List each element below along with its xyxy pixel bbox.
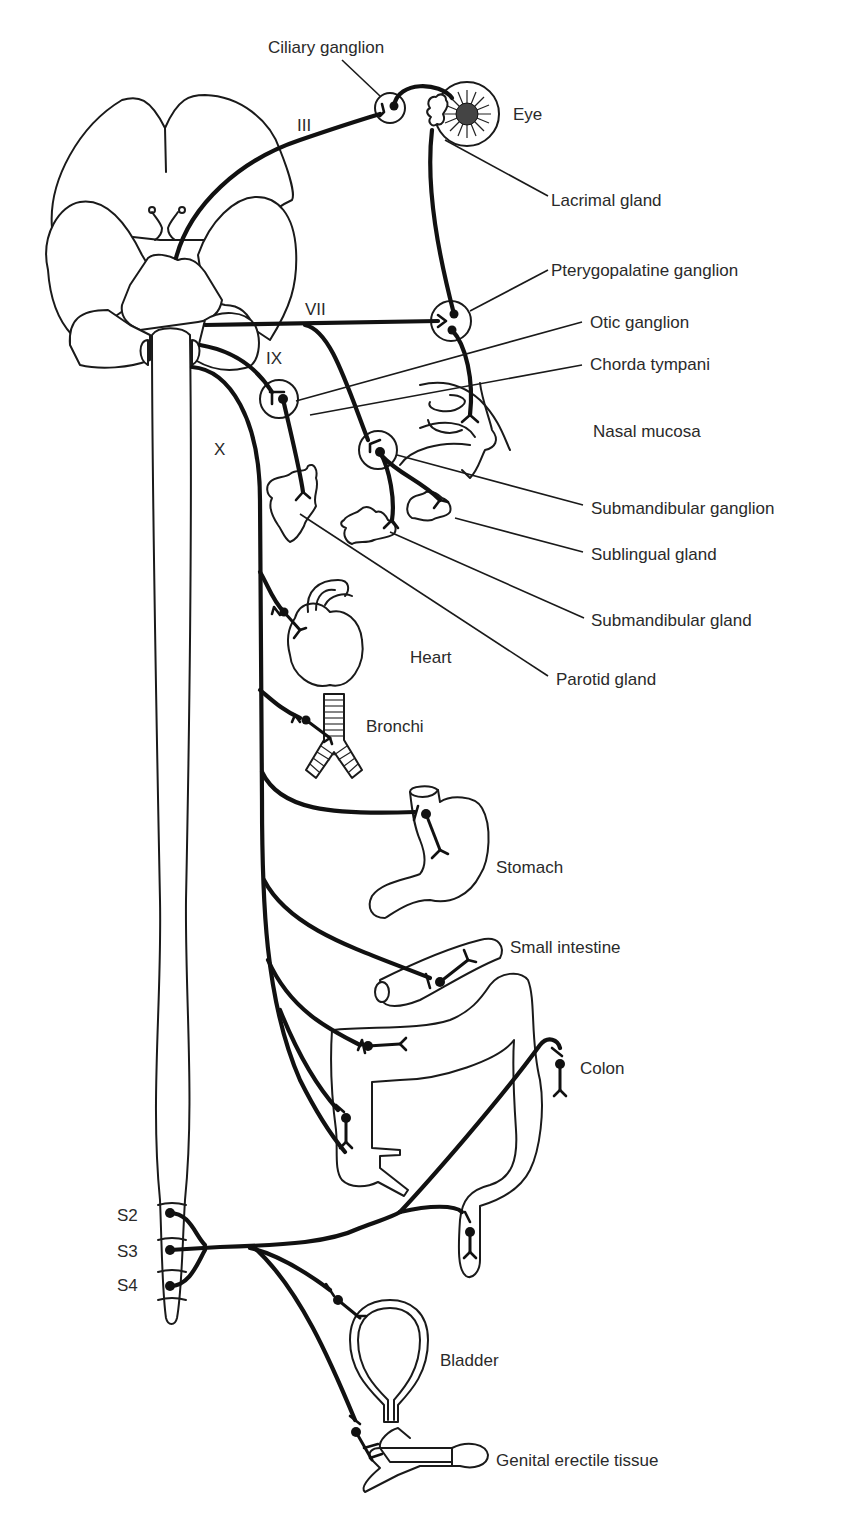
label-lacrimal-gland: Lacrimal gland — [551, 191, 662, 210]
label-small-intestine: Small intestine — [510, 938, 621, 957]
segment-label-s2: S2 — [117, 1206, 138, 1225]
nerve-label-x: X — [214, 440, 225, 459]
label-bronchi: Bronchi — [366, 717, 424, 736]
parasympathetic-diagram: III VII IX X Ciliary ganglion Eye Lacrim… — [0, 0, 860, 1527]
label-chorda-tympani: Chorda tympani — [590, 355, 710, 374]
label-sublingual-gland: Sublingual gland — [591, 545, 717, 564]
nerve-label-vii: VII — [305, 300, 326, 319]
label-eye: Eye — [513, 105, 542, 124]
label-otic-ganglion: Otic ganglion — [590, 313, 689, 332]
genital-erectile-tissue-shape — [363, 1428, 488, 1492]
label-ciliary-ganglion: Ciliary ganglion — [268, 38, 384, 57]
nerve-label-ix: IX — [266, 349, 282, 368]
segment-label-s4: S4 — [117, 1276, 138, 1295]
lacrimal-gland-shape — [427, 94, 448, 125]
segment-label-s3: S3 — [117, 1242, 138, 1261]
nerve-label-iii: III — [297, 116, 311, 135]
spinal-cord — [152, 328, 191, 1324]
label-bladder: Bladder — [440, 1351, 499, 1370]
label-parotid-gland: Parotid gland — [556, 670, 656, 689]
bronchi-shape — [306, 694, 362, 778]
label-stomach: Stomach — [496, 858, 563, 877]
colon-shape — [331, 974, 542, 1277]
ciliary-ganglion — [375, 93, 405, 123]
bladder-shape — [350, 1300, 428, 1422]
label-heart: Heart — [410, 648, 452, 667]
label-colon: Colon — [580, 1059, 624, 1078]
sublingual-gland-shape — [407, 491, 450, 520]
nasal-mucosa-shape — [400, 383, 510, 478]
stomach-shape — [370, 786, 489, 918]
cerebellum-right — [195, 313, 259, 370]
parotid-gland-shape — [267, 465, 317, 542]
label-genital-erectile-tissue: Genital erectile tissue — [496, 1451, 659, 1470]
label-submandibular-ganglion: Submandibular ganglion — [591, 499, 774, 518]
label-submandibular-gland: Submandibular gland — [591, 611, 752, 630]
label-pterygopalatine-ganglion: Pterygopalatine ganglion — [551, 261, 738, 280]
label-nasal-mucosa: Nasal mucosa — [593, 422, 701, 441]
